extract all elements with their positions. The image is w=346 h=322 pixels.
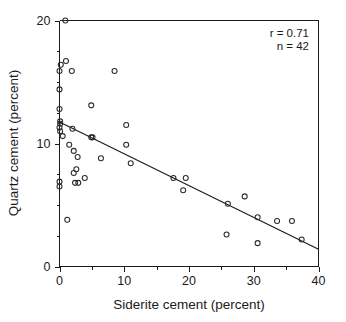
data-point — [60, 134, 65, 139]
y-axis-ticks — [55, 22, 60, 268]
y-axis-tick-labels: 01020 — [37, 14, 51, 274]
data-point — [63, 59, 68, 64]
data-point — [71, 148, 76, 153]
data-point — [124, 142, 129, 147]
data-point — [124, 123, 129, 128]
x-axis-tick-labels: 010203040 — [56, 274, 325, 288]
data-point — [65, 217, 70, 222]
regression-line — [60, 122, 319, 249]
data-point — [224, 232, 229, 237]
data-point — [255, 241, 260, 246]
sample-size-annotation: n = 42 — [277, 40, 309, 52]
data-point — [69, 68, 74, 73]
data-point — [275, 218, 280, 223]
chart-canvas: 010203040 01020 Siderite cement (percent… — [0, 0, 346, 322]
y-tick-label: 20 — [37, 14, 51, 28]
data-point — [76, 180, 81, 185]
x-axis-ticks — [61, 267, 320, 272]
data-point-series — [57, 18, 304, 246]
regression-line-group — [60, 122, 319, 249]
data-point — [181, 188, 186, 193]
data-point — [75, 155, 80, 160]
x-axis-title: Siderite cement (percent) — [113, 297, 265, 312]
data-point — [128, 161, 133, 166]
data-point — [82, 175, 87, 180]
data-point — [112, 68, 117, 73]
data-point — [98, 156, 103, 161]
data-point — [289, 218, 294, 223]
data-point — [242, 194, 247, 199]
x-tick-label: 10 — [117, 274, 131, 288]
x-tick-label: 0 — [56, 274, 63, 288]
scatter-plot-figure: 010203040 01020 Siderite cement (percent… — [0, 0, 346, 322]
data-point — [71, 171, 76, 176]
data-point — [183, 175, 188, 180]
data-point — [67, 142, 72, 147]
statistics-annotation: r = 0.71 n = 42 — [270, 27, 309, 52]
correlation-annotation: r = 0.71 — [270, 27, 309, 39]
x-tick-label: 40 — [312, 274, 326, 288]
y-axis-title: Quartz cement (percent) — [6, 70, 21, 216]
y-tick-label: 10 — [37, 137, 51, 151]
x-tick-label: 30 — [247, 274, 261, 288]
data-point — [89, 103, 94, 108]
x-tick-label: 20 — [182, 274, 196, 288]
y-tick-label: 0 — [44, 260, 51, 274]
